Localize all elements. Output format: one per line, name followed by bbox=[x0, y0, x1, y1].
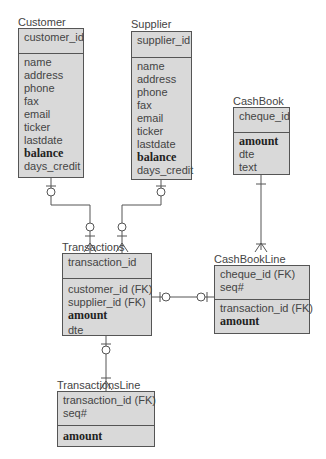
attribute: name bbox=[24, 56, 78, 69]
key-section: supplier_id bbox=[132, 32, 191, 58]
entity-cashbookline[interactable]: cheque_id (FK) seq# transaction_id (FK) … bbox=[214, 265, 310, 334]
attribute: dte bbox=[68, 324, 146, 337]
entity-transactionsline[interactable]: transaction_id (FK) seq# amount bbox=[57, 391, 155, 447]
entity-cashbook[interactable]: cheque_id amount dte text bbox=[233, 107, 290, 175]
attribute: ticker bbox=[137, 125, 186, 138]
attribute-section: transaction_id (FK) amount bbox=[215, 300, 309, 330]
attribute: email bbox=[137, 112, 186, 125]
attribute: cheque_id (FK) bbox=[220, 268, 304, 281]
key-section: transaction_id (FK) seq# bbox=[58, 392, 154, 426]
attribute: dte bbox=[239, 148, 284, 161]
attribute-section: name address phone fax email ticker last… bbox=[19, 54, 83, 175]
attribute: amount bbox=[239, 135, 284, 148]
attribute-section: amount bbox=[58, 426, 154, 445]
key-section: cheque_id (FK) seq# bbox=[215, 266, 309, 300]
entity-title-customer: Customer bbox=[18, 16, 66, 28]
entity-title-transactions: Transactions bbox=[62, 241, 125, 253]
attribute: transaction_id (FK) bbox=[63, 394, 149, 407]
attribute: transaction_id bbox=[68, 256, 146, 269]
entity-title-cashbookline: CashBookLine bbox=[214, 253, 286, 265]
entity-transactions[interactable]: transaction_id customer_id (FK) supplier… bbox=[62, 253, 152, 336]
attribute: customer_id bbox=[24, 31, 78, 44]
attribute-section: name address phone fax email ticker last… bbox=[132, 58, 191, 179]
attribute: days_credit bbox=[24, 160, 78, 173]
attribute: balance bbox=[24, 147, 78, 160]
attribute: fax bbox=[137, 99, 186, 112]
attribute: address bbox=[24, 69, 78, 82]
attribute: seq# bbox=[220, 281, 304, 294]
attribute: name bbox=[137, 60, 186, 73]
attribute: phone bbox=[24, 82, 78, 95]
attribute-section: customer_id (FK) supplier_id (FK) amount… bbox=[63, 279, 151, 339]
attribute: days_credit bbox=[137, 164, 186, 177]
attribute: supplier_id bbox=[137, 34, 186, 47]
attribute: address bbox=[137, 73, 186, 86]
attribute: fax bbox=[24, 95, 78, 108]
attribute: amount bbox=[220, 315, 304, 328]
attribute: customer_id (FK) bbox=[68, 283, 146, 296]
entity-title-cashbook: CashBook bbox=[233, 95, 284, 107]
attribute: text bbox=[239, 161, 284, 174]
attribute: amount bbox=[63, 430, 149, 443]
attribute-section: amount dte text bbox=[234, 133, 289, 176]
attribute: amount bbox=[68, 309, 146, 322]
entity-title-transactionsline: TransactionsLine bbox=[57, 379, 140, 391]
entity-supplier[interactable]: supplier_id name address phone fax email… bbox=[131, 31, 192, 180]
attribute: phone bbox=[137, 86, 186, 99]
attribute: seq# bbox=[63, 407, 149, 420]
attribute: email bbox=[24, 108, 78, 121]
entity-title-supplier: Supplier bbox=[131, 18, 171, 30]
attribute: cheque_id bbox=[239, 110, 284, 123]
entity-customer[interactable]: customer_id name address phone fax email… bbox=[18, 28, 84, 178]
attribute: balance bbox=[137, 151, 186, 164]
supplier-transactions-line bbox=[122, 180, 161, 253]
key-section: cheque_id bbox=[234, 108, 289, 133]
key-section: transaction_id bbox=[63, 254, 151, 279]
attribute: ticker bbox=[24, 121, 78, 134]
key-section: customer_id bbox=[19, 29, 83, 54]
